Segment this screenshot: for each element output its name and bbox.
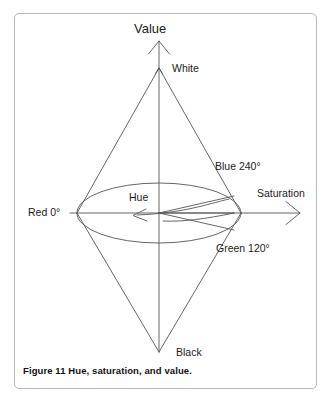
green-hue-label: Green 120° — [216, 243, 270, 254]
white-apex-label: White — [172, 63, 199, 74]
black-apex-label: Black — [176, 347, 202, 358]
blue-hue-label: Blue 240° — [215, 161, 261, 172]
red-hue-label: Red 0° — [28, 207, 60, 218]
figure-frame — [14, 13, 317, 389]
figure-root: Value White Blue 240° Saturation Hue Red… — [0, 0, 331, 406]
figure-caption: Figure 11 Hue, saturation, and value. — [23, 365, 192, 376]
saturation-axis-label: Saturation — [257, 188, 305, 199]
hue-angle-label: Hue — [129, 192, 148, 203]
value-axis-label: Value — [134, 22, 166, 35]
